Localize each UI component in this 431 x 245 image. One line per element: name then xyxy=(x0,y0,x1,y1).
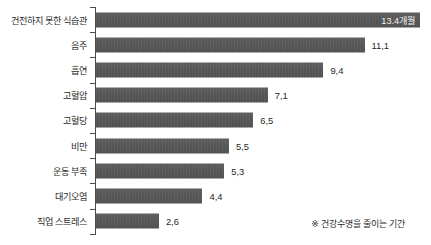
category-label: 고혈압 xyxy=(63,88,87,102)
axis-tick xyxy=(90,158,96,159)
bar-value-label: 5,3 xyxy=(231,165,244,176)
bar-value-label: 4,4 xyxy=(209,190,222,201)
category-label: 대기오염 xyxy=(55,189,87,203)
bar-row: 운동 부족5,3 xyxy=(0,158,431,183)
chart-footnote: ※ 건강수명을 줄이는 기간 xyxy=(311,217,405,230)
bar-value-label: 9,4 xyxy=(330,64,343,75)
category-label: 운동 부족 xyxy=(53,164,87,178)
category-label: 고혈당 xyxy=(63,113,87,127)
bar xyxy=(96,138,229,153)
bar xyxy=(96,163,224,178)
bar-value-label: 11,1 xyxy=(372,39,390,50)
bar-value-label: 5,5 xyxy=(236,140,249,151)
bar-value-label: 6,5 xyxy=(260,115,273,126)
axis-tick xyxy=(90,7,96,8)
bar-row: 건전하지 못한 식습관13.4개월 xyxy=(0,7,431,32)
bar-row: 비만5,5 xyxy=(0,133,431,158)
bar-wrapper: 9,4 xyxy=(96,62,343,77)
bar-row: 대기오염4,4 xyxy=(0,183,431,208)
axis-tick xyxy=(90,133,96,134)
bar-wrapper: 4,4 xyxy=(96,188,222,203)
bar xyxy=(96,88,268,103)
bar-wrapper: 11,1 xyxy=(96,37,389,52)
axis-tick xyxy=(90,183,96,184)
bar-wrapper: 2,6 xyxy=(96,214,179,229)
bar-row: 흡연9,4 xyxy=(0,57,431,82)
bar-row: 고혈압7,1 xyxy=(0,83,431,108)
axis-tick xyxy=(90,83,96,84)
bar-wrapper: 13.4개월 xyxy=(96,12,420,27)
bar-wrapper: 5,3 xyxy=(96,163,244,178)
bar: 13.4개월 xyxy=(96,12,420,27)
bar xyxy=(96,214,159,229)
bar-row: 고혈당6,5 xyxy=(0,108,431,133)
axis-tick xyxy=(90,32,96,33)
category-label: 음주 xyxy=(71,38,87,52)
plot-area: 건전하지 못한 식습관13.4개월음주11,1흡연9,4고혈압7,1고혈당6,5… xyxy=(0,0,431,245)
bar xyxy=(96,62,323,77)
bar-value-label: 2,6 xyxy=(166,216,179,227)
axis-tick xyxy=(90,108,96,109)
axis-tick xyxy=(90,234,96,235)
category-label: 비만 xyxy=(71,139,87,153)
category-label: 건전하지 못한 식습관 xyxy=(11,13,87,27)
bar-value-label: 7,1 xyxy=(275,90,288,101)
bar-wrapper: 6,5 xyxy=(96,113,273,128)
bar xyxy=(96,188,202,203)
bar-value-label: 13.4개월 xyxy=(381,13,415,27)
bar-wrapper: 5,5 xyxy=(96,138,249,153)
bar xyxy=(96,113,253,128)
bar xyxy=(96,37,365,52)
bar-wrapper: 7,1 xyxy=(96,88,288,103)
bar-chart: 건전하지 못한 식습관13.4개월음주11,1흡연9,4고혈압7,1고혈당6,5… xyxy=(0,0,431,245)
bar-row: 음주11,1 xyxy=(0,32,431,57)
category-label: 흡연 xyxy=(71,63,87,77)
axis-tick xyxy=(90,57,96,58)
axis-tick xyxy=(90,209,96,210)
category-label: 직업 스트레스 xyxy=(37,214,87,228)
